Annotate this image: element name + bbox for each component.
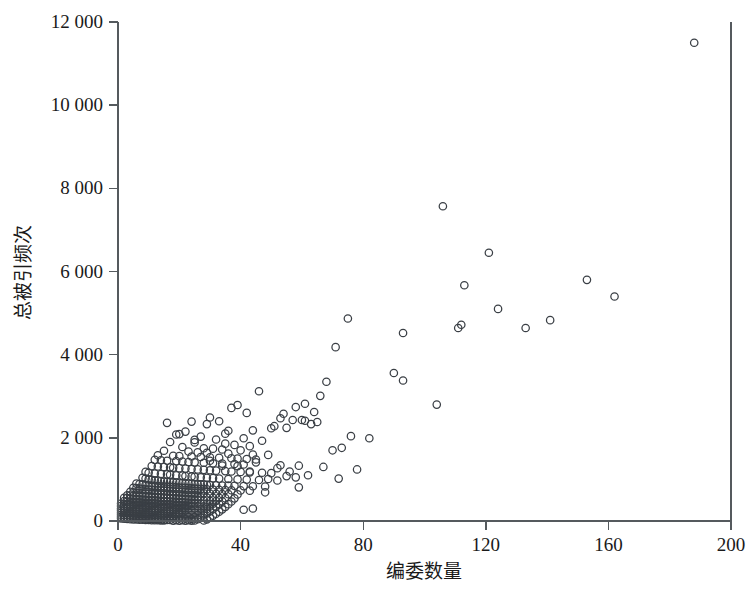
y-tick-label: 4 000	[60, 344, 103, 365]
data-point	[292, 403, 299, 410]
y-tick-label: 2 000	[60, 427, 103, 448]
data-point	[310, 408, 317, 415]
data-point	[166, 438, 173, 445]
data-point	[439, 203, 446, 210]
data-point	[246, 442, 253, 449]
data-point	[228, 404, 235, 411]
data-point	[329, 447, 336, 454]
data-point	[212, 436, 219, 443]
data-point	[323, 378, 330, 385]
x-tick-label: 40	[231, 534, 250, 555]
x-axis-title: 编委数量	[386, 561, 462, 582]
y-tick-label: 0	[94, 510, 104, 531]
data-point	[347, 432, 354, 439]
chart-canvas: 04080120160200 02 0004 0006 0008 00010 0…	[0, 0, 750, 589]
data-point	[390, 369, 397, 376]
data-point	[335, 475, 342, 482]
x-tick-label: 80	[354, 534, 373, 555]
data-point	[258, 437, 265, 444]
data-point	[243, 409, 250, 416]
x-tick-group: 04080120160200	[113, 521, 745, 555]
data-point	[240, 506, 247, 513]
data-point	[522, 324, 529, 331]
data-point	[255, 388, 262, 395]
data-point	[583, 276, 590, 283]
y-tick-label: 10 000	[51, 94, 103, 115]
data-point	[338, 444, 345, 451]
data-point	[255, 476, 262, 483]
data-point	[366, 435, 373, 442]
data-point	[295, 484, 302, 491]
data-point	[485, 249, 492, 256]
data-point	[344, 315, 351, 322]
data-point	[237, 447, 244, 454]
y-tick-label: 8 000	[60, 177, 103, 198]
x-tick-label: 120	[472, 534, 501, 555]
y-tick-group: 02 0004 0006 0008 00010 00012 000	[51, 11, 118, 531]
data-point	[215, 418, 222, 425]
data-point	[353, 466, 360, 473]
x-tick-label: 160	[594, 534, 623, 555]
data-point	[399, 329, 406, 336]
data-point	[461, 282, 468, 289]
data-point	[295, 462, 302, 469]
data-point	[258, 469, 265, 476]
data-point	[320, 463, 327, 470]
data-point	[249, 505, 256, 512]
data-point	[399, 377, 406, 384]
data-point	[611, 293, 618, 300]
scatter-plot-figure: 04080120160200 02 0004 0006 0008 00010 0…	[0, 0, 750, 589]
x-tick-label: 0	[113, 534, 123, 555]
data-point-group	[117, 39, 698, 524]
x-tick-label: 200	[717, 534, 746, 555]
data-point	[304, 472, 311, 479]
data-point	[264, 451, 271, 458]
data-point	[546, 316, 553, 323]
data-point	[203, 420, 210, 427]
data-point	[289, 416, 296, 423]
data-point	[163, 419, 170, 426]
data-point	[240, 435, 247, 442]
data-point	[188, 418, 195, 425]
data-point	[691, 39, 698, 46]
y-tick-label: 6 000	[60, 261, 103, 282]
data-point	[317, 392, 324, 399]
y-axis-title: 总被引频次	[13, 225, 34, 320]
data-point	[494, 305, 501, 312]
data-point	[433, 401, 440, 408]
data-point	[332, 343, 339, 350]
data-point	[264, 475, 271, 482]
data-point	[249, 427, 256, 434]
data-point	[292, 474, 299, 481]
data-point	[274, 477, 281, 484]
y-tick-label: 12 000	[51, 11, 103, 32]
data-point	[301, 400, 308, 407]
data-point	[231, 441, 238, 448]
data-point	[283, 424, 290, 431]
